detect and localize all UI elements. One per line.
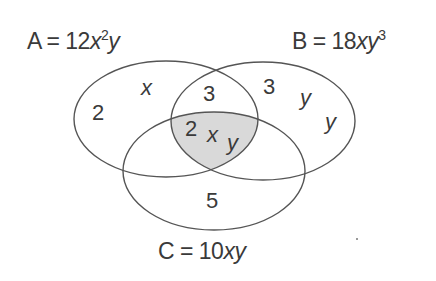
region-abc-factor-2: 2 (185, 118, 197, 140)
region-abc-factor-x: x (207, 124, 218, 146)
set-a-var-x: x (90, 28, 101, 54)
region-c-only-factor-5: 5 (206, 190, 218, 212)
region-a-only-factor-x: x (141, 77, 152, 99)
set-b-prefix: B = 18 (292, 28, 356, 54)
region-a-only-factor-2: 2 (92, 102, 104, 124)
set-a-var-y: y (108, 28, 119, 54)
set-b-exponent: 3 (378, 27, 385, 43)
stray-dot (356, 238, 358, 240)
set-b-var-xy: xy (356, 28, 378, 54)
region-b-only-factor-y2: y (325, 111, 336, 133)
venn-diagram: A = 12x2y B = 18xy3 C = 10xy 2 x 3 3 y y… (0, 0, 436, 281)
set-a-label: A = 12x2y (27, 30, 119, 53)
set-c-label: C = 10xy (158, 240, 245, 263)
set-b-label: B = 18xy3 (292, 30, 385, 53)
set-c-var-xy: xy (223, 238, 245, 264)
region-b-only-factor-y1: y (300, 87, 311, 109)
region-b-only-factor-3: 3 (263, 76, 275, 98)
region-abc-factor-y: y (227, 132, 238, 154)
set-a-prefix: A = 12 (27, 28, 90, 54)
set-a-exponent: 2 (101, 27, 108, 43)
region-ab-factor-3: 3 (203, 83, 215, 105)
set-c-prefix: C = 10 (158, 238, 223, 264)
